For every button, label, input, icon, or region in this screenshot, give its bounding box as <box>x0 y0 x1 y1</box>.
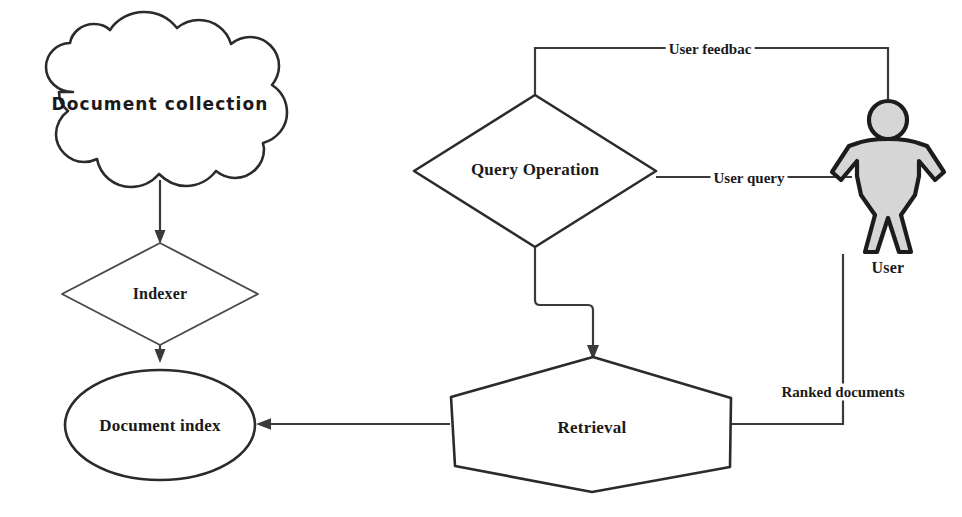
edge-retrieval-to-index <box>256 418 450 429</box>
edge-user-feedback-label: User feedbac <box>666 41 755 58</box>
node-retrieval-label: Retrieval <box>558 418 627 438</box>
arrowhead-indexer-to-index <box>155 349 166 363</box>
arrowhead-collection-to-indexer <box>155 230 166 244</box>
node-indexer-label: Indexer <box>133 285 188 303</box>
node-document-collection-label: Document collection <box>51 94 268 114</box>
diagram-canvas: Document collection Indexer Document ind… <box>0 0 962 517</box>
edge-collection-to-indexer <box>155 180 166 244</box>
user-head-icon <box>869 101 907 139</box>
arrowhead-retrieval-to-index <box>256 418 271 429</box>
node-user-label: User <box>872 259 905 277</box>
edge-ranked-documents-label: Ranked documents <box>779 384 908 401</box>
diagram-svg <box>0 0 962 517</box>
node-query-operation-label: Query Operation <box>471 160 599 180</box>
edge-user-query-label: User query <box>711 170 788 187</box>
user-body-icon <box>832 139 944 252</box>
node-document-index-label: Document index <box>99 416 220 436</box>
edge-query-to-retrieval <box>535 248 599 360</box>
